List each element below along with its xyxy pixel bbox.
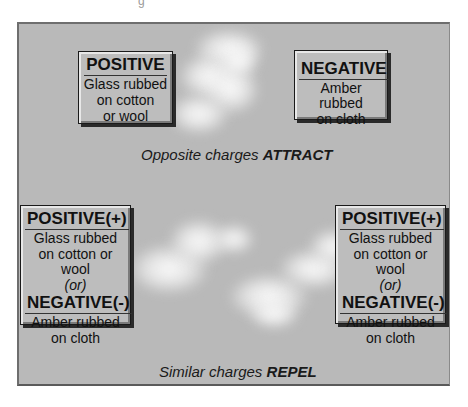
or-label: (or) (25, 277, 126, 293)
negative-desc-line: on cloth (299, 112, 383, 127)
positive-plus-title: POSITIVE(+) (340, 209, 444, 230)
negative-desc-line: Amber rubbed (25, 315, 126, 330)
attract-caption-emphasis: ATTRACT (263, 146, 333, 163)
positive-desc-line: Glass rubbed (25, 231, 126, 246)
positive-desc-line: Glass rubbed (83, 77, 168, 92)
cropped-text-fragment: g (138, 0, 145, 8)
positive-charge-box: POSITIVE Glass rubbed on cotton or wool (78, 51, 173, 124)
negative-minus-title: NEGATIVE(-) (25, 293, 132, 314)
or-label: (or) (340, 277, 441, 293)
repel-caption-prefix: Similar charges (159, 363, 267, 380)
negative-desc-line: on cloth (25, 331, 126, 346)
negative-desc-line: Amber rubbed (299, 81, 383, 111)
negative-minus-title: NEGATIVE(-) (340, 293, 447, 314)
positive-desc-line: on cotton (83, 93, 168, 108)
repel-caption: Similar charges REPEL (159, 363, 317, 380)
negative-desc-line: on cloth (340, 331, 441, 346)
positive-title: POSITIVE (84, 55, 166, 76)
positive-desc-line: on cotton or wool (340, 247, 441, 277)
similar-charge-box-left: POSITIVE(+) Glass rubbed on cotton or wo… (20, 205, 131, 325)
negative-charge-box: NEGATIVE Amber rubbed on cloth (294, 50, 388, 120)
diagram-panel: POSITIVE Glass rubbed on cotton or wool … (17, 22, 450, 386)
attract-caption: Opposite charges ATTRACT (141, 146, 332, 163)
repel-caption-emphasis: REPEL (267, 363, 317, 380)
negative-desc-line: Amber rubbed (340, 315, 441, 330)
negative-title: NEGATIVE (299, 59, 389, 80)
positive-desc-line: Glass rubbed (340, 231, 441, 246)
attract-caption-prefix: Opposite charges (141, 146, 263, 163)
positive-plus-title: POSITIVE(+) (25, 209, 129, 230)
positive-desc-line: on cotton or wool (25, 247, 126, 277)
similar-charge-box-right: POSITIVE(+) Glass rubbed on cotton or wo… (335, 205, 446, 324)
positive-desc-line: or wool (83, 109, 168, 124)
